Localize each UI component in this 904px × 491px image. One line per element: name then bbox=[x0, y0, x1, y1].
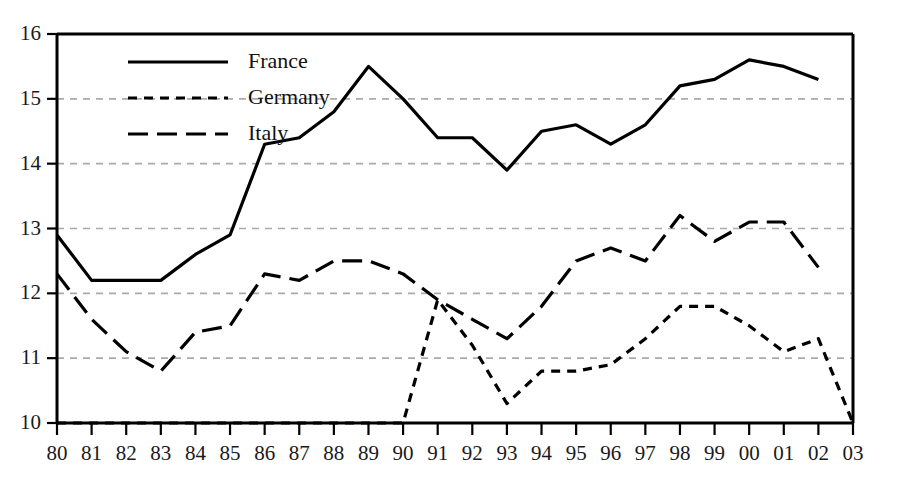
series-line-germany bbox=[57, 300, 853, 423]
gridlines bbox=[57, 99, 853, 423]
x-tick-label: 03 bbox=[833, 443, 873, 464]
plot-area bbox=[0, 0, 904, 491]
y-tick-label: 10 bbox=[1, 412, 41, 433]
legend-label-italy: Italy bbox=[248, 122, 288, 144]
legend-sample-lines bbox=[128, 62, 228, 134]
y-tick-label: 13 bbox=[1, 218, 41, 239]
x-axis-ticks bbox=[57, 423, 853, 435]
data-series bbox=[57, 60, 853, 423]
legend-label-france: France bbox=[248, 50, 308, 72]
series-line-france bbox=[57, 60, 818, 280]
line-chart: 10111213141516 8081828384858687888990919… bbox=[0, 0, 904, 491]
y-tick-label: 14 bbox=[1, 153, 41, 174]
y-tick-label: 11 bbox=[1, 347, 41, 368]
y-tick-label: 12 bbox=[1, 282, 41, 303]
y-tick-label: 16 bbox=[1, 23, 41, 44]
y-tick-label: 15 bbox=[1, 88, 41, 109]
legend-label-germany: Germany bbox=[248, 86, 330, 108]
